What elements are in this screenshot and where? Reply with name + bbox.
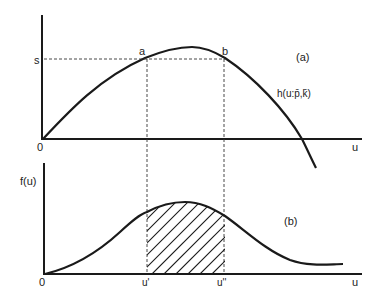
point-b-label: b	[222, 45, 228, 57]
diagram: s a b (a) h(u:p̄,k̄) 0 u f(u) (b) 0	[0, 0, 379, 302]
u-double-prime-label: u''	[217, 277, 226, 288]
shaded-area	[68, 194, 292, 274]
panel-a: s a b (a) h(u:p̄,k̄) 0 u	[34, 15, 362, 274]
point-a-label: a	[139, 45, 146, 57]
panel-b: f(u) (b) 0 u' u'' u	[20, 163, 362, 288]
u-prime-label: u'	[142, 277, 150, 288]
f-curve	[45, 202, 343, 274]
panel-a-origin-label: 0	[37, 141, 43, 153]
panel-a-label: (a)	[296, 51, 309, 63]
panel-b-x-axis-label: u	[352, 276, 358, 288]
panel-b-label: (b)	[284, 215, 297, 227]
panel-b-origin-label: 0	[39, 276, 45, 288]
s-label: s	[34, 54, 40, 66]
h-curve	[43, 47, 316, 168]
h-curve-label: h(u:p̄,k̄)	[277, 88, 311, 99]
f-u-axis-label: f(u)	[20, 175, 37, 187]
panel-a-x-axis-label: u	[352, 141, 358, 153]
